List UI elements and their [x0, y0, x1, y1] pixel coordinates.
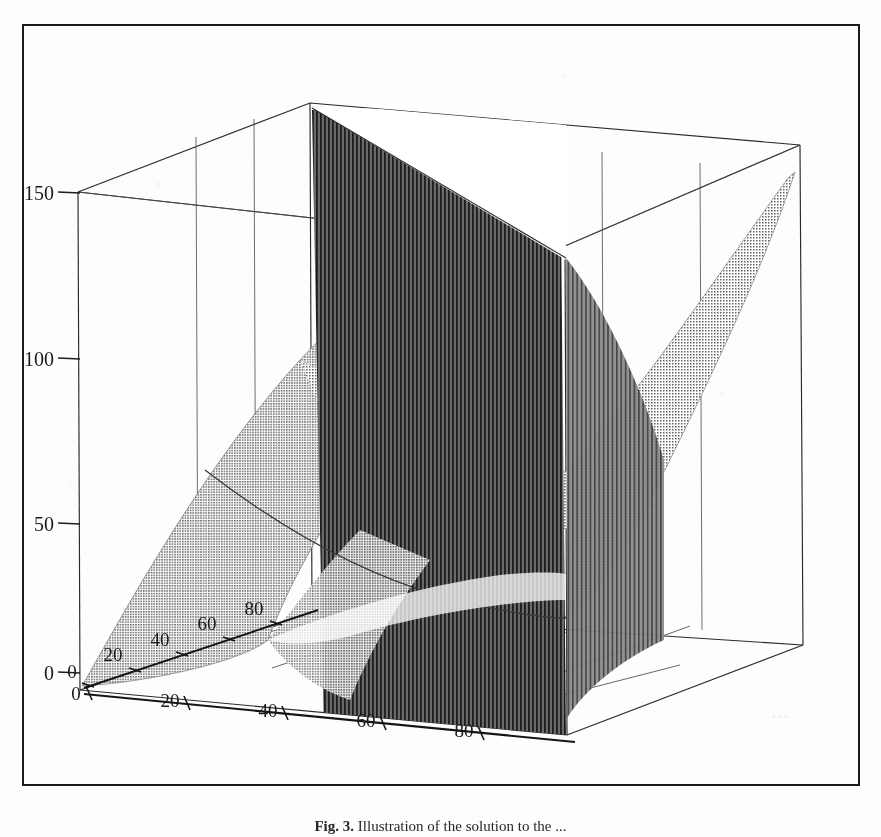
z-axis: 150 100 50 0	[24, 182, 80, 684]
box-left-vertical-edge	[78, 192, 80, 690]
z-axis-ticks	[58, 192, 80, 673]
x-tick-label-80: 80	[455, 720, 474, 741]
figure-caption: Fig. 3. Illustration of the solution to …	[0, 818, 881, 837]
y-tick-label-0: 0	[67, 661, 77, 682]
box-right-vertical-edge	[800, 145, 803, 645]
y-tick-label-80: 80	[245, 598, 264, 619]
z-tick-100	[58, 358, 80, 359]
z-tick-label-50: 50	[34, 513, 54, 535]
x-tick-label-40: 40	[259, 700, 278, 721]
dark-surface-right-flank	[566, 258, 664, 718]
figure-caption-text: Illustration of the solution to the ...	[358, 818, 567, 834]
z-tick-label-0: 0	[44, 662, 54, 684]
x-tick-0	[86, 686, 92, 700]
x-tick-label-60: 60	[357, 710, 376, 731]
surface-plot-3d: 150 100 50 0 0 20 40 60 80	[0, 0, 881, 837]
z-tick-150	[58, 192, 80, 193]
x-tick-label-0: 0	[71, 683, 81, 704]
z-tick-label-150: 150	[24, 182, 54, 204]
z-tick-label-100: 100	[24, 348, 54, 370]
figure-number: Fig. 3.	[314, 818, 354, 834]
z-tick-50	[58, 523, 80, 524]
y-tick-label-20: 20	[104, 644, 123, 665]
y-tick-label-40: 40	[151, 629, 170, 650]
y-tick-label-60: 60	[198, 613, 217, 634]
x-tick-label-20: 20	[161, 690, 180, 711]
